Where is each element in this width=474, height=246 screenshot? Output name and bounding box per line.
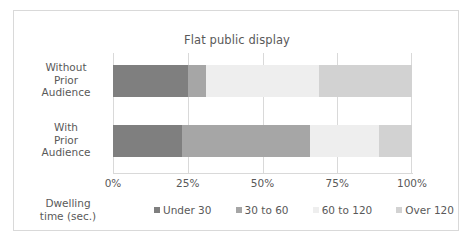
legend-label: 60 to 120 <box>322 204 373 216</box>
chart-legend: Under 3030 to 6060 to 120Over 120 <box>154 202 454 218</box>
legend-swatch-icon <box>236 207 242 213</box>
x-axis-line <box>113 173 413 174</box>
y-axis-title: Dwelling time (sec.) <box>22 197 114 222</box>
x-axis-tick-labels: 0%25%50%75%100% <box>113 177 412 193</box>
legend-swatch-icon <box>154 207 160 213</box>
chart-screenshot: Flat public display Without Prior Audien… <box>0 0 474 246</box>
chart-frame: Flat public display Without Prior Audien… <box>13 10 459 231</box>
bar-segment <box>310 125 379 157</box>
legend-item[interactable]: Over 120 <box>396 204 454 216</box>
bar-segment <box>379 125 412 157</box>
bar-row <box>113 125 412 157</box>
bar-segment <box>113 65 188 97</box>
bar-segment <box>319 65 412 97</box>
x-axis-tick-label: 75% <box>326 177 349 189</box>
plot-area <box>113 53 412 173</box>
legend-label: 30 to 60 <box>245 204 289 216</box>
chart-title: Flat public display <box>14 33 460 47</box>
category-label-line: Prior <box>24 74 108 87</box>
category-label-line: With <box>24 121 108 134</box>
category-label-line: Audience <box>24 86 108 99</box>
x-axis-tick-label: 25% <box>176 177 199 189</box>
bar-row <box>113 65 412 97</box>
bar-segment <box>188 65 206 97</box>
x-axis-tick-label: 0% <box>105 177 122 189</box>
bar-segment <box>206 65 320 97</box>
x-axis-tick-label: 50% <box>251 177 274 189</box>
bar-segment <box>113 125 182 157</box>
legend-swatch-icon <box>313 207 319 213</box>
x-axis-tick-label: 100% <box>397 177 427 189</box>
category-label-line: Without <box>24 61 108 74</box>
legend-item[interactable]: 30 to 60 <box>236 204 289 216</box>
category-label-with-prior-audience: With Prior Audience <box>24 121 108 159</box>
bar-segment <box>182 125 311 157</box>
legend-item[interactable]: 60 to 120 <box>313 204 373 216</box>
legend-item[interactable]: Under 30 <box>154 204 211 216</box>
legend-label: Over 120 <box>405 204 454 216</box>
category-label-line: Audience <box>24 146 108 159</box>
legend-swatch-icon <box>396 207 402 213</box>
y-axis-title-line-1: Dwelling <box>22 197 114 210</box>
category-label-without-prior-audience: Without Prior Audience <box>24 61 108 99</box>
y-axis-title-line-2: time (sec.) <box>22 210 114 223</box>
legend-label: Under 30 <box>163 204 211 216</box>
category-label-line: Prior <box>24 134 108 147</box>
